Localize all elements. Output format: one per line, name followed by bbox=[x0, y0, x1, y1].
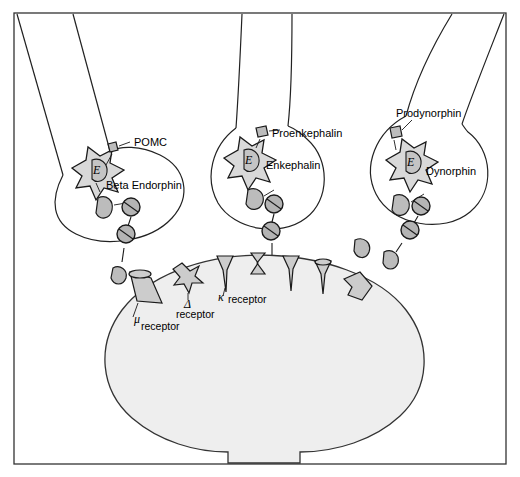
vesicle-left-1 bbox=[122, 198, 140, 216]
leader-pomc bbox=[119, 142, 130, 146]
receptor-cone-b-cap bbox=[315, 259, 331, 265]
label-beta-endorphin: Beta Endorphin bbox=[106, 179, 182, 191]
arrow-middle-vesicle bbox=[272, 214, 274, 222]
axon-right-edge-a bbox=[406, 14, 452, 116]
vesicle-right-1 bbox=[412, 197, 430, 215]
er-label-right: E bbox=[406, 155, 415, 169]
receptor-mu-label: receptor bbox=[141, 320, 180, 332]
released-peptide-right-b bbox=[354, 239, 370, 258]
label-dynorphin: Dynorphin bbox=[426, 165, 476, 177]
label-prodynorphin: Prodynorphin bbox=[396, 107, 461, 119]
receptor-delta-label: receptor bbox=[176, 308, 215, 320]
terminal-right: E Prodynorphin Dynorphin bbox=[354, 14, 504, 269]
terminal-middle: E Proenkephalin Enkephalin bbox=[211, 14, 342, 277]
terminal-left: E POMC Beta Endorphin bbox=[17, 14, 184, 284]
released-peptide-left bbox=[111, 267, 126, 284]
diagram-canvas: E POMC Beta Endorphin bbox=[0, 0, 520, 477]
label-pomc: POMC bbox=[134, 136, 167, 148]
arrow-release-left bbox=[122, 248, 124, 262]
precursor-blob-right bbox=[390, 126, 402, 138]
receptor-kappa-symbol: κ bbox=[218, 290, 224, 304]
label-proenkephalin: Proenkephalin bbox=[272, 127, 342, 139]
arrow-release-right bbox=[396, 243, 402, 252]
vesicle-right-2 bbox=[401, 221, 419, 239]
precursor-blob-middle bbox=[256, 126, 268, 137]
leader-prodynorphin-down bbox=[394, 140, 396, 150]
axon-mid-edge-b bbox=[288, 14, 292, 126]
axon-right-edge-b bbox=[462, 14, 504, 124]
vesicle-middle-1 bbox=[265, 195, 283, 213]
released-peptide-right-a bbox=[383, 251, 398, 269]
er-label-left: E bbox=[92, 163, 101, 177]
er-label-middle: E bbox=[244, 153, 253, 167]
receptor-kappa-label: receptor bbox=[228, 293, 267, 305]
peptide-middle bbox=[246, 189, 263, 210]
receptor-mu-symbol: μ bbox=[133, 312, 140, 326]
precursor-blob-left bbox=[108, 142, 118, 152]
axon-left-edge-b bbox=[73, 14, 110, 151]
peptide-left bbox=[96, 197, 112, 218]
axon-mid-edge-a bbox=[236, 14, 242, 128]
vesicle-left-2 bbox=[117, 225, 135, 243]
leader-prodynorphin bbox=[402, 120, 412, 130]
axon-left-edge-a bbox=[17, 14, 63, 175]
peptide-right bbox=[392, 195, 409, 216]
label-enkephalin: Enkephalin bbox=[266, 159, 320, 171]
vesicle-middle-2 bbox=[262, 222, 280, 240]
synapse-diagram: E POMC Beta Endorphin bbox=[0, 0, 520, 477]
